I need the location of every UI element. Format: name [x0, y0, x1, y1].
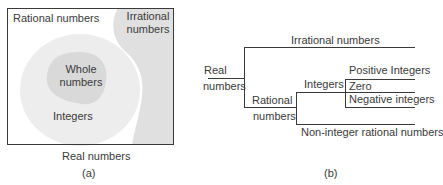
caption-a: (a) [82, 167, 95, 180]
rational-numbers-label: Rational numbers [13, 12, 99, 25]
caption-b: (b) [324, 167, 337, 180]
whole-numbers-label: Whole numbers [58, 63, 104, 89]
rational-label: Rational [252, 94, 292, 107]
real-numbers-root-label: numbers [203, 80, 246, 93]
integers-node: Integers [304, 78, 344, 91]
irrational-numbers-node: Irrational numbers [291, 34, 380, 47]
real-numbers-label: Real numbers [62, 150, 130, 163]
integers-label: Integers [53, 110, 93, 123]
negative-integers-node: Negative integers [349, 93, 435, 106]
non-integer-rational-node: Non-integer rational numbers [301, 126, 443, 139]
rational-numbers-node: numbers [253, 110, 296, 123]
irrational-numbers-label: Irrational numbers [124, 10, 172, 36]
positive-integers-node: Positive Integers [349, 64, 430, 77]
real-label: Real [204, 64, 227, 77]
zero-node: Zero [349, 80, 372, 93]
